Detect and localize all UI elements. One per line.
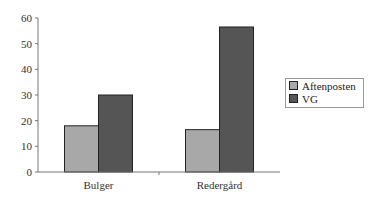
x-tick-label: Bulger [84,179,114,191]
legend-swatch [289,94,298,103]
legend-swatch [289,81,298,90]
y-tick-label: 50 [21,38,33,50]
bar [99,95,133,172]
y-axis: 0102030405060 [21,12,38,178]
bars [65,27,254,172]
bar [65,126,99,172]
y-tick-label: 40 [21,63,33,75]
x-axis: BulgerRedergård [38,172,280,191]
x-tick-label: Redergård [197,179,243,191]
bar [220,27,254,172]
legend-item-aftenposten: Aftenposten [286,79,363,92]
y-tick-label: 0 [27,166,33,178]
legend-item-vg: VG [286,92,363,105]
y-tick-label: 60 [21,12,33,24]
y-tick-label: 20 [21,115,33,127]
legend-label: VG [302,93,318,105]
y-tick-label: 30 [21,89,33,101]
y-tick-label: 10 [21,140,33,152]
legend-label: Aftenposten [302,80,356,92]
legend: Aftenposten VG [285,78,364,108]
bar [186,130,220,172]
